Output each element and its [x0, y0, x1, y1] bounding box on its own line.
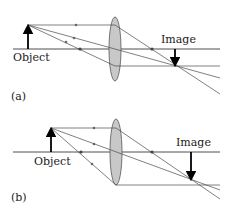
ray-arrow-mark: [65, 41, 68, 44]
panel-b: Object Image (b): [11, 119, 220, 204]
image-label: Image: [176, 136, 211, 149]
ray-arrow-mark: [91, 163, 94, 166]
lens-ray-diagram: Object Image (a) Object Image (b): [0, 0, 232, 219]
image-label: Image: [161, 33, 196, 46]
panel-a: Object Image (a): [11, 17, 220, 103]
ray-arrow-mark: [93, 143, 96, 146]
ray-arrow-mark: [93, 127, 96, 130]
ray-arrow-mark: [75, 24, 78, 27]
object-label: Object: [34, 155, 71, 168]
focal-point-right: [150, 47, 153, 50]
focal-point-right: [150, 150, 153, 153]
focal-point-left: [78, 47, 81, 50]
object-label: Object: [13, 51, 50, 64]
ray-arrow-mark: [73, 37, 76, 40]
panel-label: (b): [11, 191, 27, 204]
panel-label: (a): [11, 90, 26, 103]
focal-point-left: [79, 150, 82, 153]
